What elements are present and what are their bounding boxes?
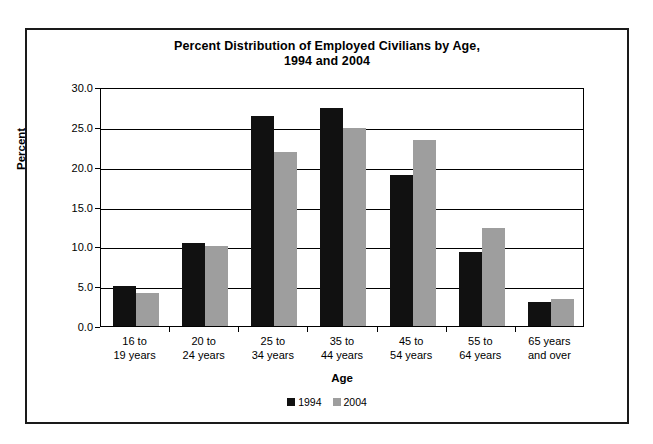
x-axis-tick-label-line: 35 to [307,334,376,348]
bar-group [239,89,308,326]
bar-1994[interactable] [390,175,413,326]
x-axis-tick-label-line: and over [515,348,584,362]
y-axis-title: Percent [15,128,27,170]
x-axis-tick-label-line: 16 to [100,334,169,348]
x-axis-tick-marks [100,327,584,333]
bar-group [170,89,239,326]
x-axis-tick-mark [446,327,447,332]
chart-figure-frame: Percent Distribution of Employed Civilia… [25,28,629,424]
y-axis-tick-label: 5.0 [53,281,93,293]
legend-swatch-icon [287,398,295,406]
x-axis-tick-label-line: 34 years [238,348,307,362]
x-axis-tick-label-line: 55 to [446,334,515,348]
x-axis-tick-label: 65 yearsand over [515,334,584,362]
bar-1994[interactable] [528,302,551,326]
y-axis-tick-label: 0.0 [53,321,93,333]
x-axis-tick-label: 35 to44 years [307,334,376,362]
bar-group [378,89,447,326]
legend-entry-2004[interactable]: 2004 [333,396,367,408]
bar-1994[interactable] [251,116,274,326]
x-axis-title: Age [100,372,584,384]
legend-entry-1994[interactable]: 1994 [287,396,321,408]
bar-2004[interactable] [205,246,228,326]
bar-2004[interactable] [482,228,505,326]
x-axis-tick-label: 55 to64 years [446,334,515,362]
x-axis-tick-label-line: 45 to [377,334,446,348]
chart-title: Percent Distribution of Employed Civilia… [27,39,627,69]
x-axis-tick-label-line: 24 years [169,348,238,362]
y-axis-tick-label: 30.0 [53,82,93,94]
bar-2004[interactable] [136,293,159,326]
y-axis-tick-label: 25.0 [53,122,93,134]
x-axis-tick-label: 25 to34 years [238,334,307,362]
bar-group [308,89,377,326]
x-axis-tick-mark [515,327,516,332]
legend-label: 1994 [298,396,321,408]
x-axis-tick-label: 45 to54 years [377,334,446,362]
y-axis-tick-label: 15.0 [53,202,93,214]
x-axis-tick-label-line: 19 years [100,348,169,362]
bar-1994[interactable] [182,243,205,326]
x-axis-tick-labels: 16 to19 years20 to24 years25 to34 years3… [100,334,584,368]
x-axis-tick-label-line: 44 years [307,348,376,362]
legend-label: 2004 [344,396,367,408]
chart-title-line-1: Percent Distribution of Employed Civilia… [174,39,480,53]
bar-2004[interactable] [343,128,366,326]
y-axis-tick-labels: 30.025.020.015.010.05.00.0 [47,88,93,327]
y-axis-tick-label: 10.0 [53,241,93,253]
bar-group [516,89,585,326]
bar-2004[interactable] [413,140,436,326]
x-axis-tick-label: 20 to24 years [169,334,238,362]
bar-1994[interactable] [459,252,482,326]
plot-area [100,88,584,327]
x-axis-tick-mark [307,327,308,332]
x-axis-tick-label-line: 54 years [377,348,446,362]
x-axis-tick-mark [238,327,239,332]
x-axis-tick-label-line: 65 years [515,334,584,348]
bar-group [101,89,170,326]
bar-2004[interactable] [274,152,297,326]
chart-title-line-2: 1994 and 2004 [27,54,627,69]
bar-1994[interactable] [113,286,136,326]
x-axis-tick-label: 16 to19 years [100,334,169,362]
x-axis-tick-mark [377,327,378,332]
x-axis-tick-label-line: 20 to [169,334,238,348]
legend-swatch-icon [333,398,341,406]
x-axis-tick-mark [169,327,170,332]
y-axis-tick-label: 20.0 [53,162,93,174]
chart-legend: 19942004 [27,396,627,408]
bar-group [447,89,516,326]
x-axis-tick-label-line: 25 to [238,334,307,348]
bar-1994[interactable] [320,108,343,326]
bar-2004[interactable] [551,299,574,326]
x-axis-tick-label-line: 64 years [446,348,515,362]
